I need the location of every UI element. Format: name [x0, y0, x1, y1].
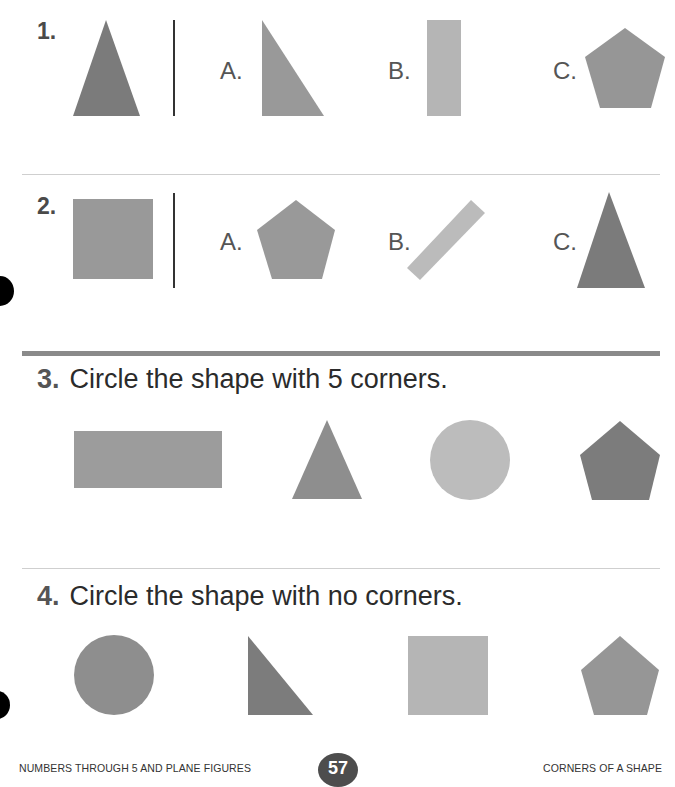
- q3-circle[interactable]: [430, 420, 510, 500]
- question-2-divider: [173, 193, 175, 288]
- question-4-number: 4.: [37, 581, 60, 611]
- q4-square[interactable]: [408, 636, 488, 715]
- q1-option-c-pentagon[interactable]: [585, 28, 665, 108]
- question-2-number: 2.: [37, 193, 56, 220]
- q3-pentagon[interactable]: [580, 421, 660, 500]
- q4-pentagon[interactable]: [581, 636, 659, 715]
- section-divider-2: [22, 568, 660, 569]
- question-1-number: 1.: [37, 18, 56, 45]
- q1-option-c-label: C.: [553, 57, 577, 85]
- section-divider-thick: [22, 351, 660, 356]
- question-3-number: 3.: [37, 364, 60, 394]
- page-number-badge: 57: [318, 753, 358, 787]
- q2-target-rectangle: [73, 199, 153, 279]
- question-4-heading: 4.Circle the shape with no corners.: [37, 581, 463, 612]
- q1-target-triangle: [73, 20, 140, 116]
- question-3-prompt: Circle the shape with 5 corners.: [70, 364, 448, 394]
- q3-triangle[interactable]: [292, 420, 362, 499]
- question-3-heading: 3.Circle the shape with 5 corners.: [37, 364, 448, 395]
- q1-option-b-tall-rectangle[interactable]: [427, 20, 461, 116]
- q2-option-a-label: A.: [220, 228, 243, 256]
- q2-option-c-triangle[interactable]: [577, 192, 645, 288]
- q1-option-a-right-triangle[interactable]: [262, 20, 324, 116]
- question-1-divider: [173, 20, 175, 116]
- q2-option-c-label: C.: [553, 228, 577, 256]
- section-divider-1: [22, 174, 660, 175]
- question-4-prompt: Circle the shape with no corners.: [70, 581, 463, 611]
- q1-option-b-label: B.: [388, 57, 411, 85]
- q2-option-a-pentagon[interactable]: [257, 200, 335, 279]
- q2-option-b-label: B.: [388, 228, 411, 256]
- footer-lesson-title: CORNERS OF A SHAPE: [543, 762, 662, 774]
- q4-right-triangle[interactable]: [248, 636, 313, 715]
- q3-rectangle[interactable]: [74, 431, 222, 488]
- q1-option-a-label: A.: [220, 57, 243, 85]
- footer-unit-title: NUMBERS THROUGH 5 AND PLANE FIGURES: [19, 762, 251, 774]
- q2-option-b-rotated-rectangle[interactable]: [407, 200, 485, 280]
- q4-circle[interactable]: [74, 635, 154, 715]
